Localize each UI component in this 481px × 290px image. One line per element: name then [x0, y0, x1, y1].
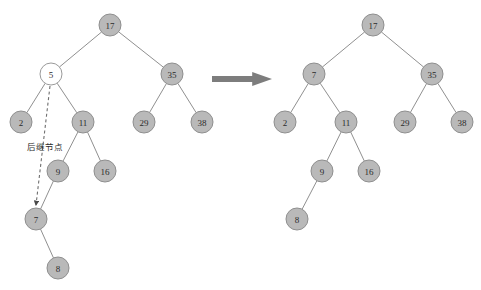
tree-edge	[320, 83, 340, 113]
tree-node: 29	[394, 111, 416, 133]
tree-node-circle	[451, 111, 473, 133]
tree-node-circle	[99, 14, 121, 36]
tree-node-circle	[311, 160, 333, 182]
tree-node: 38	[451, 111, 473, 133]
tree-edge	[150, 84, 167, 113]
tree-node-circle	[25, 208, 47, 230]
tree-node: 17	[362, 14, 384, 36]
transform-arrow-glyph	[212, 72, 272, 86]
tree-node-circle	[94, 160, 116, 182]
tree-node: 5	[40, 63, 62, 85]
tree-node-circle	[72, 111, 94, 133]
tree-node-circle	[358, 160, 380, 182]
tree-node: 35	[421, 63, 443, 85]
right-tree-nodes: 1773521129389168	[274, 14, 473, 230]
tree-node: 7	[25, 208, 47, 230]
tree-edge	[57, 83, 77, 113]
tree-node: 9	[311, 160, 333, 182]
tree-node: 16	[94, 160, 116, 182]
tree-node-circle	[161, 63, 183, 85]
tree-edge	[63, 132, 78, 161]
tree-node-circle	[362, 14, 384, 36]
tree-node-circle	[133, 111, 155, 133]
tree-edge	[41, 181, 54, 209]
tree-edge	[178, 83, 196, 112]
tree-node: 29	[133, 111, 155, 133]
successor-node-label: 后继节点	[27, 142, 63, 152]
tree-node-circle	[335, 111, 357, 133]
tree-node: 11	[72, 111, 94, 133]
tree-node: 16	[358, 160, 380, 182]
tree-node: 8	[286, 208, 308, 230]
tree-edge	[327, 132, 341, 161]
tree-edge	[381, 32, 423, 67]
tree-edge	[88, 132, 101, 161]
tree-node-circle	[303, 63, 325, 85]
tree-node: 7	[303, 63, 325, 85]
tree-node: 11	[335, 111, 357, 133]
tree-node-circle	[47, 257, 69, 279]
tree-node-circle	[191, 111, 213, 133]
bst-deletion-diagram: 17535211293891678 后继节点 1773521129389168	[0, 0, 481, 290]
tree-edge	[322, 32, 364, 67]
tree-node: 38	[191, 111, 213, 133]
tree-edge	[302, 181, 317, 209]
tree-edge	[119, 32, 164, 67]
tree-edge	[27, 83, 45, 112]
tree-node-circle	[286, 208, 308, 230]
transform-arrow	[212, 72, 272, 86]
tree-node: 2	[274, 111, 296, 133]
tree-node-circle	[274, 111, 296, 133]
tree-edge	[59, 32, 101, 67]
tree-node: 9	[47, 160, 69, 182]
tree-edge	[291, 83, 309, 112]
tree-node-circle	[394, 111, 416, 133]
tree-node: 17	[99, 14, 121, 36]
tree-node-circle	[47, 160, 69, 182]
tree-node-circle	[421, 63, 443, 85]
tree-edge	[438, 83, 456, 112]
tree-node: 8	[47, 257, 69, 279]
tree-node-circle	[10, 111, 32, 133]
right-tree-edges	[291, 32, 456, 209]
tree-node-circle	[40, 63, 62, 85]
tree-edge	[351, 132, 365, 161]
tree-edge	[410, 84, 426, 113]
tree-node: 2	[10, 111, 32, 133]
tree-node: 35	[161, 63, 183, 85]
tree-edge	[41, 229, 54, 258]
